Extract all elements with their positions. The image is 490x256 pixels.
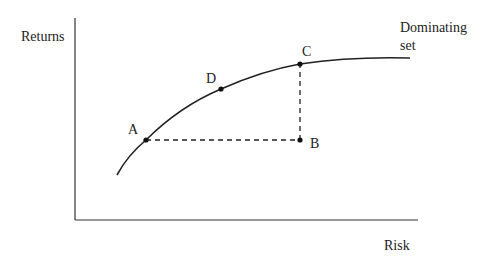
curve-label-line1: Dominating — [400, 20, 467, 36]
curve-label-line2: set — [400, 38, 416, 54]
point-a-label: A — [128, 122, 138, 138]
point-d-label: D — [206, 71, 216, 87]
y-axis-label: Returns — [21, 29, 65, 45]
point-c-label: C — [302, 44, 311, 60]
point-d-dot — [218, 86, 223, 91]
point-b-dot — [297, 137, 302, 142]
point-a-dot — [143, 137, 148, 142]
diagram-canvas — [0, 0, 490, 256]
point-c-dot — [297, 61, 302, 66]
dominating-set-curve — [117, 58, 410, 175]
point-b-label: B — [310, 136, 319, 152]
x-axis-label: Risk — [384, 238, 410, 254]
